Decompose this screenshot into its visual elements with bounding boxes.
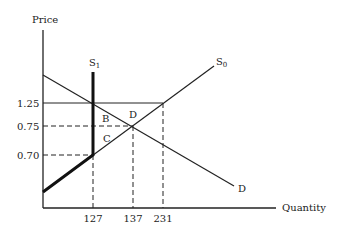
s1-label: S1 [89,57,100,70]
y-tick-label: 0.70 [17,150,39,161]
demand-label: D [238,183,246,194]
y-tick-label: 0.75 [17,121,39,132]
x-axis-label: Quantity [282,202,326,213]
x-tick-label: 231 [153,213,172,224]
area-c-label: C [103,133,111,144]
y-tick-label: 1.25 [17,98,39,109]
s0-label: S0 [216,56,227,69]
x-tick-label: 127 [83,213,102,224]
x-tick-label: 137 [123,213,142,224]
supply-demand-diagram: Price Quantity S1 S0 D B C D 1.25 0.75 0… [0,0,342,230]
area-b-label: B [102,113,109,124]
equilibrium-label: D [129,109,137,120]
y-axis-label: Price [32,14,58,25]
